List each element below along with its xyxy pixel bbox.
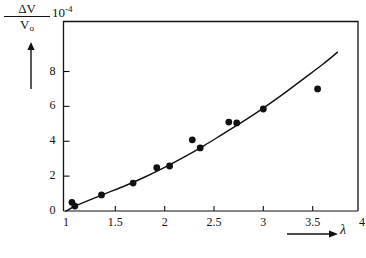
x-axis-tick-marks [115,206,312,211]
y-axis-tick-label: 0 [40,203,56,218]
y-axis-tick-label: 4 [40,133,56,148]
fitted-curve [66,52,337,211]
data-point [130,180,137,187]
y-axis-tick-marks [64,72,70,177]
x-axis-tick-label: 3.5 [299,215,327,230]
data-point [71,203,78,210]
data-point [153,164,160,171]
data-point-markers [69,86,321,210]
plot-frame [64,22,359,212]
data-point [189,136,196,143]
data-point [260,106,267,113]
x-axis-tick-label: 3 [249,215,277,230]
x-axis-tick-label: 2.5 [200,215,228,230]
data-point [197,144,204,151]
data-point [233,120,240,127]
figure-container: ΔV Vo 10-4 λ 11.522.533.54 02468 [0,0,366,258]
data-point [98,192,105,199]
data-point [225,119,232,126]
x-axis-tick-label: 1 [52,215,80,230]
data-point [166,163,173,170]
data-point [314,86,321,93]
x-axis-tick-label: 2 [151,215,179,230]
y-axis-tick-label: 2 [40,168,56,183]
x-axis-tick-label: 1.5 [101,215,129,230]
y-axis-tick-label: 8 [40,64,56,79]
y-axis-tick-label: 6 [40,98,56,113]
x-axis-tick-label: 4 [348,215,366,230]
